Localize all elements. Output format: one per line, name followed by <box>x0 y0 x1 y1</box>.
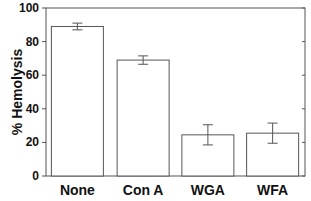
x-tick-label: WGA <box>191 182 225 198</box>
bar-chart: 020406080100 NoneCon AWGAWFA % Hemolysis <box>0 0 311 201</box>
y-tick-label: 0 <box>32 169 39 183</box>
x-tick-label: None <box>60 182 95 198</box>
y-tick-label: 60 <box>26 68 40 82</box>
bars <box>51 23 298 176</box>
bar-con-a <box>117 60 169 176</box>
y-tick-label: 40 <box>26 102 40 116</box>
y-tick-label: 100 <box>19 1 39 15</box>
y-axis-label: % Hemolysis <box>9 49 25 136</box>
x-tick-label: WFA <box>257 182 288 198</box>
bar-none <box>51 26 103 176</box>
x-tick-label: Con A <box>123 182 164 198</box>
y-tick-label: 80 <box>26 35 40 49</box>
y-tick-label: 20 <box>26 135 40 149</box>
x-axis-labels: NoneCon AWGAWFA <box>60 182 288 198</box>
